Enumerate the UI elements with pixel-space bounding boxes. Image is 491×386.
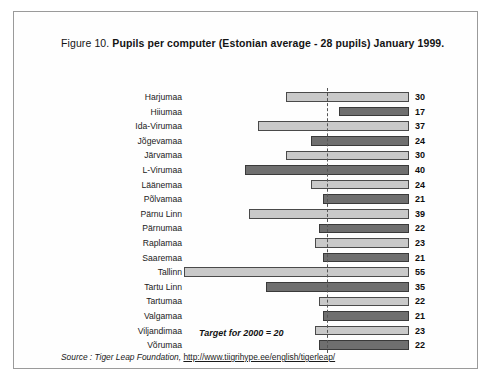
bar-track [184, 90, 409, 105]
chart-row: Hiiumaa17 [27, 105, 491, 120]
bar [323, 311, 409, 321]
category-label: Hiiumaa [27, 105, 182, 120]
bar-value-label: 55 [415, 265, 425, 280]
bar-value-label: 21 [415, 251, 425, 266]
figure-frame: Figure 10. Pupils per computer (Estonian… [13, 11, 478, 369]
bar-track [184, 236, 409, 251]
bar [319, 340, 409, 350]
bar-value-label: 23 [415, 236, 425, 251]
bar-value-label: 23 [415, 324, 425, 339]
bar-track [184, 134, 409, 149]
chart-row: Võrumaa22 [27, 338, 491, 353]
bar [286, 151, 409, 161]
category-label: Raplamaa [27, 236, 182, 251]
chart-row: Valgamaa21 [27, 309, 491, 324]
bar-value-label: 30 [415, 90, 425, 105]
chart-row: Harjumaa30 [27, 90, 491, 105]
chart-row: Saaremaa21 [27, 251, 491, 266]
bar [286, 92, 409, 102]
figure-number: Figure 10. [61, 37, 109, 49]
category-label: Saaremaa [27, 251, 182, 266]
bar [319, 297, 409, 307]
bar-value-label: 39 [415, 207, 425, 222]
chart-row: Järvamaa30 [27, 148, 491, 163]
bar-value-label: 37 [415, 119, 425, 134]
bar-track [184, 119, 409, 134]
chart-row: Tartumaa22 [27, 294, 491, 309]
category-label: Harjumaa [27, 90, 182, 105]
bar-value-label: 30 [415, 148, 425, 163]
target-caption: Target for 2000 = 20 [199, 328, 283, 338]
source-url-link[interactable]: http://www.tiigrihype.ee/english/tigerle… [183, 352, 335, 362]
bar-value-label: 24 [415, 134, 425, 149]
bar-track [184, 192, 409, 207]
bar-value-label: 40 [415, 163, 425, 178]
chart-row: Pärnu Linn39 [27, 207, 491, 222]
chart-row: Raplamaa23 [27, 236, 491, 251]
bar-value-label: 24 [415, 178, 425, 193]
chart-row: Ida-Virumaa37 [27, 119, 491, 134]
bar [319, 224, 409, 234]
bar [258, 121, 409, 131]
bar-value-label: 17 [415, 105, 425, 120]
bar-track [184, 265, 409, 280]
category-label: Tartumaa [27, 294, 182, 309]
bar [266, 282, 409, 292]
bar-track [184, 207, 409, 222]
bar-value-label: 35 [415, 280, 425, 295]
category-label: Jõgevamaa [27, 134, 182, 149]
chart-row: Tartu Linn35 [27, 280, 491, 295]
chart-row: L-Virumaa40 [27, 163, 491, 178]
bar [311, 136, 409, 146]
category-label: Tartu Linn [27, 280, 182, 295]
bar [311, 180, 409, 190]
chart-row: Põlvamaa21 [27, 192, 491, 207]
figure-title-text: Pupils per computer (Estonian average - … [112, 37, 444, 49]
category-label: Valgamaa [27, 309, 182, 324]
bar-value-label: 22 [415, 294, 425, 309]
category-label: Võrumaa [27, 338, 182, 353]
bar-track [184, 280, 409, 295]
bar-track [184, 221, 409, 236]
bar-track [184, 178, 409, 193]
bar-track [184, 294, 409, 309]
category-label: Tallinn [27, 265, 182, 280]
bar-track [184, 105, 409, 120]
chart-row: Läänemaa24 [27, 178, 491, 193]
bar-track [184, 148, 409, 163]
chart-row: Pärnumaa22 [27, 221, 491, 236]
bar [323, 253, 409, 263]
bar-track [184, 163, 409, 178]
bar [184, 267, 409, 277]
bar-track [184, 338, 409, 353]
bar-chart: Harjumaa30Hiiumaa17Ida-Virumaa37Jõgevama… [27, 90, 491, 345]
bar [315, 238, 409, 248]
bar [249, 209, 409, 219]
bar-value-label: 21 [415, 192, 425, 207]
bar-track [184, 309, 409, 324]
bar [245, 165, 409, 175]
category-label: Pärnumaa [27, 221, 182, 236]
category-label: Põlvamaa [27, 192, 182, 207]
source-line: Source : Tiger Leap Foundation, http://w… [61, 352, 335, 362]
bar [323, 194, 409, 204]
category-label: Pärnu Linn [27, 207, 182, 222]
bar-track [184, 251, 409, 266]
category-label: Ida-Virumaa [27, 119, 182, 134]
bar-value-label: 21 [415, 309, 425, 324]
chart-row: Tallinn55 [27, 265, 491, 280]
bar-value-label: 22 [415, 338, 425, 353]
category-label: L-Virumaa [27, 163, 182, 178]
source-prefix: Source : Tiger Leap Foundation, [61, 352, 181, 362]
bar [339, 107, 409, 117]
category-label: Viljandimaa [27, 324, 182, 339]
chart-row: Jõgevamaa24 [27, 134, 491, 149]
bar-value-label: 22 [415, 221, 425, 236]
bar [315, 326, 409, 336]
category-label: Järvamaa [27, 148, 182, 163]
category-label: Läänemaa [27, 178, 182, 193]
figure-title: Figure 10. Pupils per computer (Estonian… [61, 37, 444, 49]
